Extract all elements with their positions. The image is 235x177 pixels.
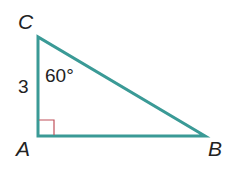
vertex-label-a: A [16, 138, 30, 159]
triangle-abc [38, 37, 205, 136]
vertex-label-c: C [18, 11, 33, 32]
triangle-diagram [0, 0, 235, 177]
vertex-label-b: B [208, 138, 222, 159]
side-label-ac: 3 [18, 77, 29, 96]
angle-label-c: 60° [45, 66, 74, 85]
right-angle-marker [39, 120, 54, 135]
